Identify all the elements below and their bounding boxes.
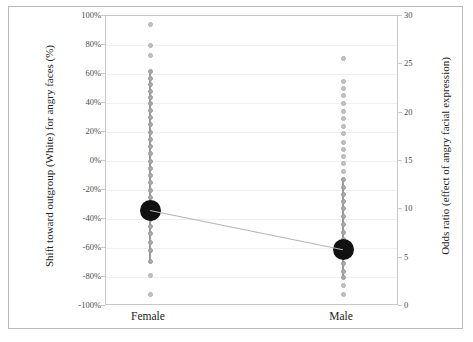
x-axis-label-male: Male [281,310,401,322]
y-tick-label-right: 5 [404,253,430,262]
data-point [148,231,153,236]
y-tick-label-left: 80% [53,40,101,49]
y-tick-mark-right [398,305,402,306]
data-point [148,224,153,229]
y-tick-label-left: 60% [53,69,101,78]
data-point [341,93,346,98]
x-axis-label-female: Female [88,310,208,322]
y-tick-label-right: 15 [404,156,430,165]
y-tick-label-left: 20% [53,127,101,136]
y-tick-label-left: 0% [53,156,101,165]
y-tick-mark-right [398,257,402,258]
data-point [341,161,346,166]
data-point [148,248,153,253]
data-point [148,22,153,27]
y-tick-label-left: 40% [53,98,101,107]
data-point [148,259,153,264]
data-point [148,240,153,245]
data-point [148,144,153,149]
y-tick-mark-right [398,160,402,161]
data-point [148,76,153,81]
y-tick-mark-right [398,15,402,16]
data-point [341,131,346,136]
data-point [341,109,346,114]
data-point [148,95,153,100]
y-tick-mark-right [398,112,402,113]
data-point [148,115,153,120]
connector-line [150,210,343,250]
data-point [341,116,346,121]
data-point [341,214,346,219]
y-tick-label-left: -40% [53,214,101,223]
data-point [148,173,153,178]
y-tick-label-right: 0 [404,301,430,310]
data-point [341,222,346,227]
data-point [341,101,346,106]
y-tick-label-left: -80% [53,272,101,281]
data-point [341,169,346,174]
mean-marker-male [333,239,354,260]
data-point [148,82,153,87]
data-point [341,292,346,297]
data-point [148,188,153,193]
data-point [341,283,346,288]
data-point [341,140,346,145]
y-tick-label-right: 10 [404,204,430,213]
data-point [148,53,153,58]
data-point [148,137,153,142]
plot-area [105,15,398,305]
data-point [341,230,346,235]
data-point [148,108,153,113]
data-point [148,159,153,164]
data-point [341,86,346,91]
data-point [341,56,346,61]
data-point [341,192,346,197]
data-point [148,130,153,135]
data-point [341,124,346,129]
data-point [148,273,153,278]
data-point [341,79,346,84]
y-tick-mark-left [101,305,105,306]
data-point [341,199,346,204]
data-point [148,101,153,106]
y-tick-label-right: 30 [404,11,430,20]
data-point [148,166,153,171]
figure-container: Shift toward outgroup (White) for angry … [0,0,473,342]
data-point [341,177,346,182]
y-tick-label-left: -20% [53,185,101,194]
data-point [148,69,153,74]
data-point [341,275,346,280]
y-tick-label-left: -60% [53,243,101,252]
data-point [148,89,153,94]
data-point [341,154,346,159]
data-point [341,147,346,152]
y-tick-label-left: -100% [53,301,101,310]
data-point [148,180,153,185]
y-axis-right-title: Odds ratio (effect of angry facial expre… [439,11,451,301]
y-tick-label-right: 20 [404,108,430,117]
data-point [148,122,153,127]
y-tick-mark-right [398,63,402,64]
y-tick-label-left: 100% [53,11,101,20]
data-point [341,206,346,211]
y-axis-left-title: Shift toward outgroup (White) for angry … [43,11,55,301]
data-point [341,269,346,274]
data-point [341,185,346,190]
y-tick-mark-right [398,208,402,209]
y-tick-label-right: 25 [404,59,430,68]
data-point [148,292,153,297]
data-point [148,151,153,156]
data-point [148,43,153,48]
